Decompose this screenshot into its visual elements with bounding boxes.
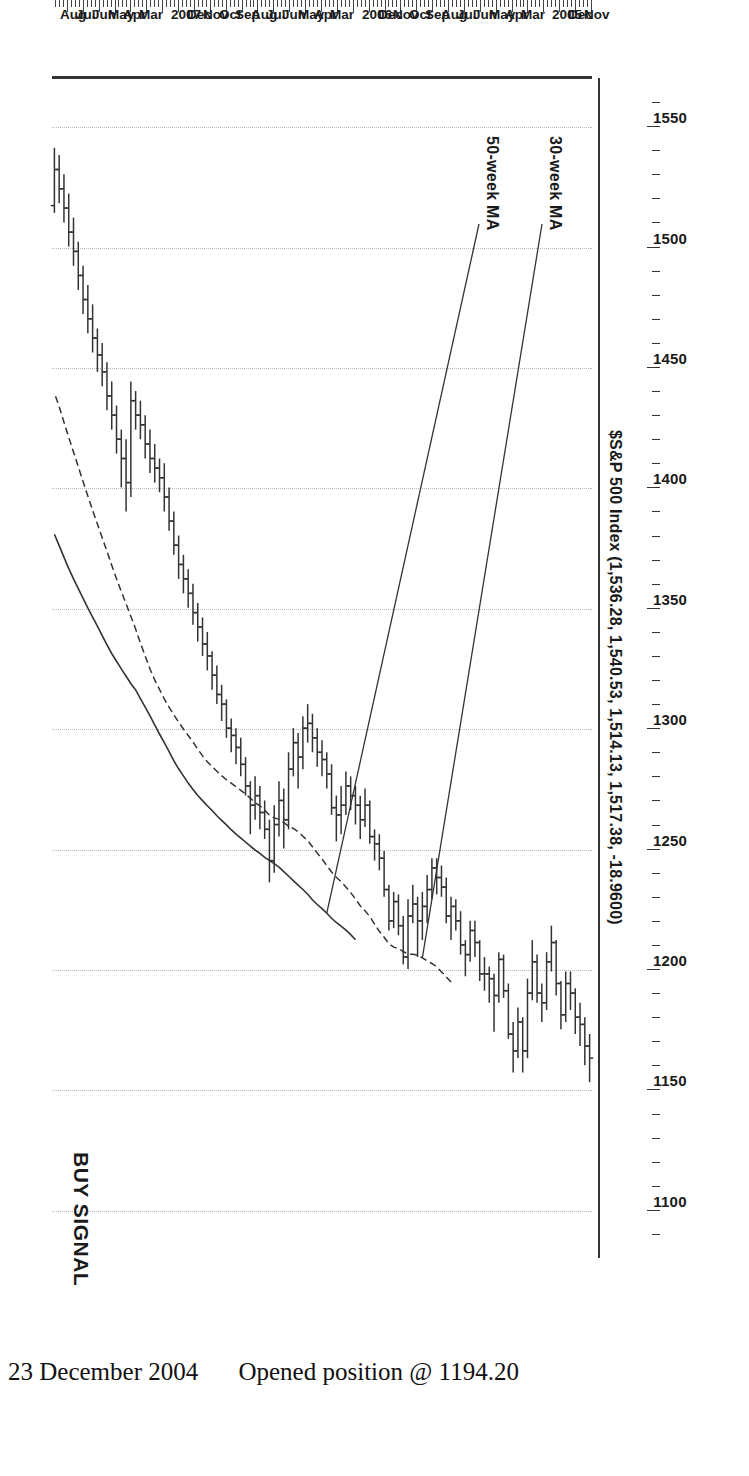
- price-tick-label: 1500: [653, 230, 687, 247]
- price-tick-minor: [652, 463, 660, 464]
- price-tick-label: 1150: [653, 1072, 686, 1089]
- price-tick-label: 1550: [653, 109, 687, 126]
- price-tick-minor: [652, 1041, 660, 1042]
- price-tick-minor: [652, 800, 660, 801]
- caption-date: 23 December 2004: [8, 1358, 198, 1386]
- price-tick-label: 1200: [653, 952, 687, 969]
- figure-caption: 23 December 2004 Opened position @ 1194.…: [0, 1352, 749, 1432]
- price-tick-minor: [652, 1138, 660, 1139]
- time-tick-minor: [547, 0, 548, 7]
- ma30-label: 30-week MA: [546, 136, 564, 231]
- price-tick-major: [647, 487, 660, 488]
- time-tick-minor: [357, 0, 358, 7]
- price-tick-major: [647, 728, 660, 729]
- price-tick-minor: [652, 897, 660, 898]
- buy-signal-label: BUY SIGNAL: [69, 1152, 93, 1286]
- price-gridline: [52, 729, 592, 730]
- price-gridline: [52, 970, 592, 971]
- price-tick-minor: [652, 825, 660, 826]
- price-gridline: [52, 127, 592, 128]
- time-tick-label: Jun: [282, 7, 306, 22]
- price-tick-minor: [652, 704, 660, 705]
- time-tick-minor: [55, 0, 56, 7]
- price-tick-minor: [652, 632, 660, 633]
- price-tick-minor: [652, 776, 660, 777]
- price-tick-minor: [652, 198, 660, 199]
- price-tick-label: 1350: [653, 591, 687, 608]
- plot-area: [52, 78, 592, 1258]
- time-tick-label: 2005: [552, 7, 582, 22]
- price-tick-minor: [652, 439, 660, 440]
- price-tick-minor: [652, 921, 660, 922]
- price-tick-major: [647, 126, 660, 127]
- price-tick-minor: [652, 993, 660, 994]
- price-tick-minor: [652, 560, 660, 561]
- price-gridline: [52, 248, 592, 249]
- price-gridline: [52, 850, 592, 851]
- price-tick-minor: [652, 415, 660, 416]
- price-axis: [598, 78, 600, 1258]
- price-gridline: [52, 1090, 592, 1091]
- price-tick-minor: [652, 319, 660, 320]
- price-tick-minor: [652, 680, 660, 681]
- time-tick-minor: [166, 0, 167, 7]
- price-gridline: [52, 609, 592, 610]
- price-tick-minor: [652, 1065, 660, 1066]
- price-tick-minor: [652, 873, 660, 874]
- ma50-label: 50-week MA: [483, 136, 501, 231]
- time-tick-label: 2007: [171, 7, 201, 22]
- price-tick-label: 1250: [653, 832, 687, 849]
- price-tick-minor: [652, 391, 660, 392]
- price-tick-minor: [652, 1186, 660, 1187]
- price-tick-minor: [652, 222, 660, 223]
- price-tick-minor: [652, 295, 660, 296]
- price-tick-minor: [652, 1114, 660, 1115]
- price-tick-minor: [652, 656, 660, 657]
- price-tick-major: [647, 969, 660, 970]
- time-tick-label: 2006: [362, 7, 392, 22]
- price-tick-minor: [652, 271, 660, 272]
- caption-note: Opened position @ 1194.20: [238, 1358, 518, 1386]
- price-tick-major: [647, 1089, 660, 1090]
- price-gridline: [52, 1211, 592, 1212]
- price-tick-minor: [652, 945, 660, 946]
- chart-title: $S&P 500 Index (1,536.28, 1,540.53, 1,51…: [606, 430, 624, 925]
- price-tick-minor: [652, 150, 660, 151]
- time-tick-label: Aug: [60, 7, 86, 22]
- price-tick-minor: [652, 1234, 660, 1235]
- price-tick-minor: [652, 1017, 660, 1018]
- price-tick-minor: [652, 584, 660, 585]
- price-tick-label: 1400: [653, 470, 687, 487]
- price-tick-minor: [652, 1162, 660, 1163]
- price-tick-label: 1450: [653, 350, 687, 367]
- price-tick-minor: [652, 343, 660, 344]
- price-tick-label: 1300: [653, 711, 687, 728]
- price-gridline: [52, 368, 592, 369]
- price-tick-major: [647, 367, 660, 368]
- price-tick-minor: [652, 511, 660, 512]
- price-tick-label: 1100: [653, 1193, 686, 1210]
- price-tick-minor: [652, 536, 660, 537]
- chart-canvas: 1550150014501400135013001250120011501100…: [0, 0, 660, 1310]
- price-tick-minor: [652, 102, 660, 103]
- price-tick-minor: [652, 174, 660, 175]
- price-gridline: [52, 488, 592, 489]
- price-tick-minor: [652, 752, 660, 753]
